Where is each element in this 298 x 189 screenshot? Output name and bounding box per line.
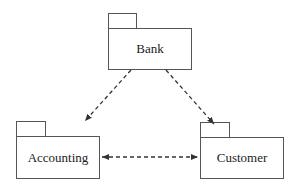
dependency-bank-customer [166,70,214,124]
package-tab [17,122,46,137]
package-label-bank: Bank [108,41,192,57]
package-label-accounting: Accounting [16,150,100,166]
package-tab [201,123,230,138]
package-label-customer: Customer [200,150,284,166]
dependency-bank-accounting [85,70,131,121]
package-tab [109,14,137,29]
